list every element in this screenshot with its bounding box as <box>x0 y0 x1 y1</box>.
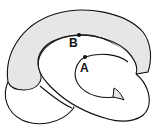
point-a-marker <box>83 55 87 59</box>
point-b-label: B <box>69 36 78 50</box>
point-a-label: A <box>80 61 89 75</box>
knot-diagram: B A <box>0 0 155 129</box>
